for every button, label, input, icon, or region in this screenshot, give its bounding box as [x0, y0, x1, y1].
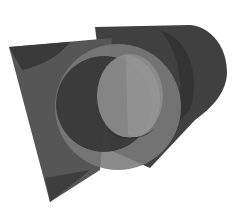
3d-shapes-render [0, 0, 234, 212]
